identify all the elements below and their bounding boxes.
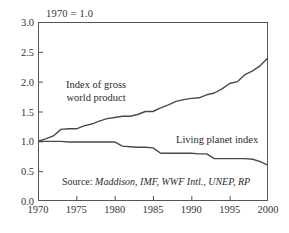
source-prefix: Source: <box>62 176 93 187</box>
x-tick-label: 1975 <box>66 204 87 215</box>
chart-figure: 1970 = 1.0 0.00.51.01.52.02.53.0 1970197… <box>0 0 289 233</box>
x-tick-label: 2000 <box>258 204 279 215</box>
x-tick-label: 1985 <box>143 204 164 215</box>
series-label-gwp: Index of gross world product <box>66 79 126 104</box>
data-series <box>38 58 268 165</box>
source-note: Source: Maddison, IMF, WWF Intl., UNEP, … <box>62 176 250 187</box>
series-label-gwp-line2: world product <box>66 92 126 105</box>
x-tick-label: 1980 <box>104 204 125 215</box>
x-tick-label: 1995 <box>219 204 240 215</box>
series-label-lpi: Living planet index <box>176 134 258 147</box>
x-tick-label: 1970 <box>28 204 49 215</box>
x-tick-label: 1990 <box>181 204 202 215</box>
plot-area <box>38 22 268 201</box>
chart-canvas <box>38 22 268 201</box>
source-references: Maddison, IMF, WWF Intl., UNEP, RP <box>95 176 250 187</box>
series-label-gwp-line1: Index of gross <box>66 79 126 92</box>
